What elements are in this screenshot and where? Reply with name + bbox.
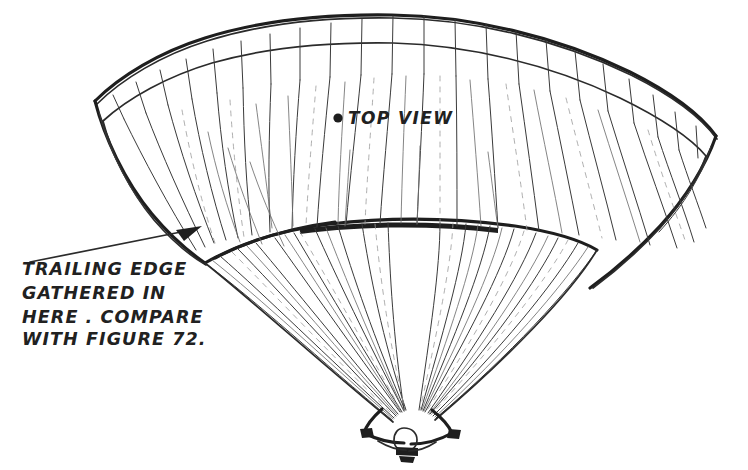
note-line-1: TRAILING EDGE <box>22 259 187 279</box>
parachute-canopy-sketch: TOP VIEW TRAILING EDGE GATHERED IN HERE … <box>0 0 748 470</box>
note-line-2: GATHERED IN <box>22 283 166 303</box>
trailing-edge-note: TRAILING EDGE GATHERED IN HERE . COMPARE… <box>22 259 207 349</box>
top-view-label: TOP VIEW <box>333 108 453 128</box>
figure-root: TOP VIEW TRAILING EDGE GATHERED IN HERE … <box>0 0 748 470</box>
top-view-label-text: TOP VIEW <box>348 108 453 128</box>
harness-confluence <box>360 409 461 463</box>
suspension-lines-left <box>205 223 406 420</box>
top-view-bullet <box>333 113 342 122</box>
canopy-hem-band <box>103 43 706 156</box>
suspension-lines-right <box>419 223 597 418</box>
note-line-3: HERE . COMPARE <box>22 307 204 327</box>
note-line-4: WITH FIGURE 72. <box>22 329 207 349</box>
